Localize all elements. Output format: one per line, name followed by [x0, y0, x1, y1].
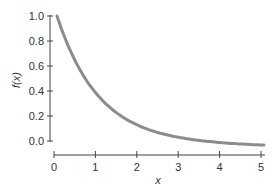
x-tick-label: 5 — [258, 161, 264, 173]
x-axis-label: x — [154, 174, 161, 186]
y-tick-label: 1.0 — [29, 10, 44, 22]
y-tick-label: 0.4 — [29, 85, 44, 97]
y-axis: 0.00.20.40.60.81.0 — [29, 10, 53, 147]
x-tick-label: 4 — [217, 161, 223, 173]
y-tick-label: 0.8 — [29, 35, 44, 47]
x-tick-label: 2 — [134, 161, 140, 173]
y-axis-label: f(x) — [10, 72, 22, 88]
x-tick-label: 1 — [92, 161, 98, 173]
y-tick-label: 0.2 — [29, 110, 44, 122]
data-series — [57, 16, 264, 145]
x-tick-label: 3 — [175, 161, 181, 173]
y-tick-label: 0.6 — [29, 60, 44, 72]
curve-line — [57, 16, 264, 145]
x-tick-label: 0 — [51, 161, 57, 173]
x-axis: 012345 — [51, 151, 265, 173]
y-tick-label: 0.0 — [29, 135, 44, 147]
exponential-decay-chart: 0.00.20.40.60.81.0 012345 f(x) x — [0, 0, 276, 195]
